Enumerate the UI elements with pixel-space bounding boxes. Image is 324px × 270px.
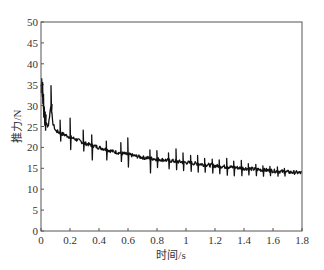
x-tick-label: 1.4 (237, 234, 251, 246)
y-axis-label: 推力/N (10, 109, 23, 142)
thrust-line (41, 85, 302, 177)
y-tick-label: 50 (27, 16, 39, 28)
y-tick-label: 5 (33, 204, 39, 216)
x-tick-label: 0.2 (63, 234, 77, 246)
svg-text:推力/N: 推力/N (10, 109, 23, 142)
x-tick-label: 1 (183, 234, 189, 246)
y-tick-label: 40 (27, 58, 39, 70)
x-tick-label: 1.8 (295, 234, 309, 246)
y-tick-label: 35 (27, 79, 39, 91)
thrust-line-start (41, 78, 46, 131)
y-tick-label: 10 (27, 183, 39, 195)
x-tick-label: 0.6 (121, 234, 135, 246)
y-tick-label: 15 (27, 162, 39, 174)
x-tick-label: 0.8 (150, 234, 164, 246)
plot-frame (41, 22, 302, 231)
y-tick-label: 45 (27, 37, 39, 49)
thrust-curve (41, 78, 302, 176)
y-tick-label: 25 (27, 121, 39, 133)
thrust-time-chart: 推力/N 时间/s 0510152025303540455000.20.40.6… (0, 0, 324, 270)
y-tick-label: 20 (27, 141, 39, 153)
axis-ticks: 0510152025303540455000.20.40.60.811.21.4… (27, 16, 309, 246)
x-axis-label: 时间/s (156, 249, 185, 261)
y-tick-label: 30 (27, 100, 39, 112)
x-tick-label: 0 (38, 234, 44, 246)
x-tick-label: 0.4 (92, 234, 106, 246)
x-tick-label: 1.6 (266, 234, 280, 246)
x-tick-label: 1.2 (208, 234, 222, 246)
